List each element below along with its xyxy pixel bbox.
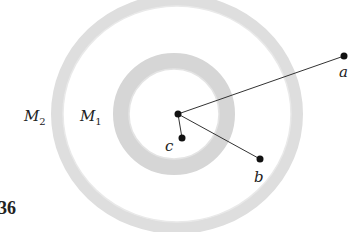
label-m2: M2 [23, 107, 46, 127]
label-a: a [339, 63, 348, 81]
label-c: c [165, 137, 174, 155]
figure-number: 36 [0, 198, 16, 218]
line-to-c [178, 114, 182, 138]
label-b: b [254, 168, 264, 186]
point-b [257, 156, 264, 163]
inner-shell-m1-edge [129, 69, 219, 159]
center-point [175, 111, 182, 118]
point-c [179, 135, 186, 142]
gravitation-shells-diagram: a b c M2 M1 36 [0, 0, 352, 232]
label-m1: M1 [79, 107, 102, 127]
inner-shell-m1 [121, 61, 227, 167]
point-a [341, 53, 348, 60]
